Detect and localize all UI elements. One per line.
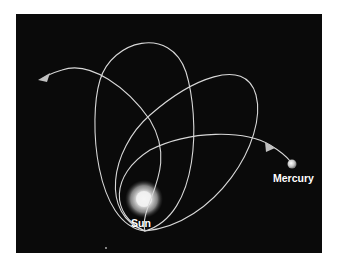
sun-core xyxy=(136,191,152,207)
orbit-diagram: Sun Mercury xyxy=(0,0,337,262)
mercury-planet xyxy=(288,160,297,169)
direction-arrow-outgoing xyxy=(38,73,50,82)
mercury-label: Mercury xyxy=(273,172,314,184)
sun-label: Sun xyxy=(131,217,151,229)
star-speck xyxy=(105,247,107,249)
